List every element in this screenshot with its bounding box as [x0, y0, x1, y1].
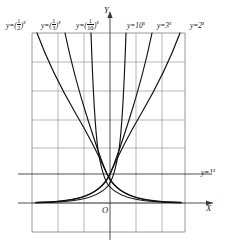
- label-y-equals-three-power-x: y=3x: [157, 22, 171, 29]
- label-half-lhs: y=(: [6, 21, 17, 30]
- label-third-lhs: y=(: [41, 21, 52, 30]
- fraction-denominator: 2: [17, 24, 21, 32]
- label-y-equals-two-power-x: y=2x: [190, 22, 204, 29]
- label-tenth-exponent: x: [96, 19, 98, 25]
- label-ten-exponent: x: [143, 20, 145, 26]
- label-y-equals-one-third-power-x: y=(13)x: [41, 18, 61, 32]
- y-axis: [107, 11, 112, 240]
- fraction-denominator: 3: [52, 24, 56, 32]
- label-two-exponent: x: [202, 20, 204, 26]
- x-axis-label: X: [206, 204, 211, 213]
- label-one-exponent: x: [213, 167, 215, 173]
- label-tenth-lhs: y=(: [76, 21, 87, 30]
- exponential-functions-figure: y=(12)x y=(13)x y=(110)x y=10x y=3x y=2x…: [0, 0, 235, 248]
- label-y-equals-one-tenth-power-x: y=(110)x: [76, 18, 99, 32]
- label-third-exponent: x: [58, 19, 60, 25]
- label-three-exponent: x: [169, 20, 171, 26]
- origin-label: O: [102, 206, 108, 215]
- y-axis-label: Y: [104, 6, 109, 15]
- label-one-text: y=1: [201, 168, 213, 177]
- label-y-equals-ten-power-x: y=10x: [127, 22, 145, 29]
- label-half-exponent: x: [23, 19, 25, 25]
- fraction-denominator: 10: [87, 24, 94, 32]
- label-y-equals-one-half-power-x: y=(12)x: [6, 18, 26, 32]
- curves-decay: [37, 33, 181, 203]
- label-two-text: y=2: [190, 21, 202, 30]
- graph-canvas: [0, 0, 235, 248]
- label-three-text: y=3: [157, 21, 169, 30]
- label-y-equals-one-power-x: y=1x: [201, 169, 215, 176]
- fraction-one-half: 12: [17, 18, 21, 32]
- fraction-one-tenth: 110: [87, 18, 94, 32]
- fraction-one-third: 13: [52, 18, 56, 32]
- label-ten-text: y=10: [127, 21, 143, 30]
